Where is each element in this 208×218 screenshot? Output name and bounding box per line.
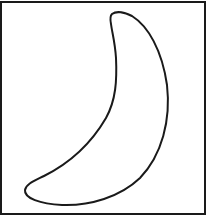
crescent-moon-icon [0, 0, 208, 218]
crescent-outline [25, 12, 168, 205]
